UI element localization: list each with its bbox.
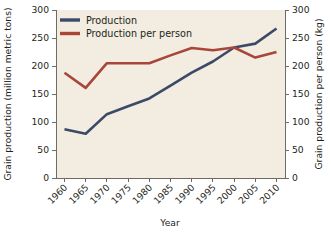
y-axis-left-tick-label: 300 — [31, 4, 49, 15]
x-axis-title: Year — [159, 217, 180, 228]
y-axis-right-tick-label: 150 — [292, 88, 310, 99]
x-axis-tick-label: 2005 — [236, 182, 260, 206]
bottom-axis: 1960196519701975198019851990199520002005… — [45, 178, 285, 206]
y-axis-left-tick-label: 100 — [31, 116, 49, 127]
y-axis-right-tick-label: 250 — [292, 32, 310, 43]
x-axis-tick-label: 1985 — [151, 182, 175, 206]
y-axis-left-title: Grain production (million metric tons) — [2, 7, 13, 180]
left-axis: 050100150200250300 — [31, 4, 56, 183]
y-axis-right-tick-label: 300 — [292, 4, 310, 15]
y-axis-right-title: Grain production per person (kg) — [313, 19, 324, 170]
right-axis: 050100150200250300 — [285, 4, 310, 183]
y-axis-left-tick-label: 150 — [31, 88, 49, 99]
x-axis-tick-label: 1980 — [130, 182, 154, 206]
grain-production-line-chart: 050100150200250300 050100150200250300 19… — [0, 0, 331, 233]
x-axis-tick-label: 2000 — [215, 182, 239, 206]
x-axis-tick-label: 1965 — [66, 182, 90, 206]
y-axis-right-tick-label: 50 — [292, 144, 304, 155]
legend-label: Production per person — [86, 28, 192, 39]
x-axis-tick-label: 2010 — [257, 182, 281, 206]
x-axis-tick-label: 1975 — [109, 182, 133, 206]
y-axis-left-tick-label: 250 — [31, 32, 49, 43]
y-axis-left-tick-label: 200 — [31, 60, 49, 71]
x-axis-tick-label: 1995 — [194, 182, 218, 206]
y-axis-left-tick-label: 0 — [43, 172, 49, 183]
y-axis-left-tick-label: 50 — [37, 144, 49, 155]
x-axis-tick-label: 1960 — [45, 182, 69, 206]
x-axis-tick-label: 1970 — [87, 182, 111, 206]
x-axis-tick-label: 1990 — [172, 182, 196, 206]
y-axis-right-tick-label: 100 — [292, 116, 310, 127]
y-axis-right-tick-label: 200 — [292, 60, 310, 71]
legend-label: Production — [86, 15, 137, 26]
y-axis-right-tick-label: 0 — [292, 172, 298, 183]
chart-figure: 050100150200250300 050100150200250300 19… — [0, 0, 331, 233]
